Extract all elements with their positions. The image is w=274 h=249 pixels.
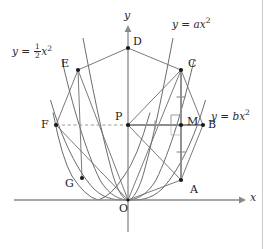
point-E (76, 68, 80, 72)
point-C (179, 68, 183, 72)
y-axis-label: y (124, 10, 130, 21)
point-label-f: F (41, 119, 49, 130)
panel-divider (262, 0, 263, 249)
point-F (54, 123, 58, 127)
point-M (179, 123, 183, 127)
segment-PC (128, 70, 181, 125)
eq-half-numerator: 1 (34, 43, 41, 51)
point-label-d: D (133, 36, 142, 47)
y-axis-arrow (125, 25, 132, 32)
eq-half-lhs: y (12, 45, 18, 57)
point-label-o: O (119, 203, 128, 214)
x-axis-arrow (239, 197, 246, 204)
point-label-a: A (190, 184, 198, 195)
point-label-g: G (65, 178, 74, 189)
equation-label-a: y = ax2 (172, 17, 210, 29)
points-group (54, 46, 205, 202)
point-B (201, 123, 205, 127)
point-label-m: M (187, 116, 198, 127)
equation-label-b: y = bx2 (211, 109, 250, 121)
point-G (80, 176, 84, 180)
eq-b-exponent: 2 (245, 108, 250, 117)
point-D (126, 46, 130, 50)
eq-b-rel: = (220, 110, 229, 122)
segment-EO (78, 70, 128, 200)
segment-DC (128, 48, 181, 70)
point-label-p: P (115, 111, 122, 122)
point-P (126, 123, 130, 127)
eq-a-lhs: y (172, 18, 178, 30)
x-axis-label: x (250, 192, 256, 203)
eq-half-denominator: 2 (34, 51, 41, 60)
equation-label-half: y = 12x2 (12, 43, 52, 60)
geometry-figure: D E C F P M B G A O y x y = 12x2 y = ax2… (0, 0, 274, 249)
point-label-c: C (188, 58, 196, 69)
point-label-e: E (61, 58, 69, 69)
eq-a-rel: = (181, 18, 190, 30)
eq-b-lhs: y (211, 110, 217, 122)
eq-a-exponent: 2 (206, 16, 211, 25)
segment-FE (56, 70, 78, 125)
point-A (179, 178, 183, 182)
eq-half-exponent: 2 (47, 44, 52, 53)
eq-half-fraction: 12 (34, 43, 41, 60)
segment-PA (128, 125, 181, 180)
eq-half-rel: = (21, 45, 30, 57)
